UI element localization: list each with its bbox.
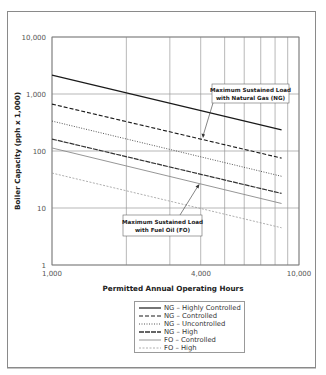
chart-legend: NG – Highly Controlled NG – Controlled N… xyxy=(134,301,245,353)
annotation-line: Maximum Sustained Load xyxy=(210,87,291,93)
series-line xyxy=(52,104,282,158)
x-tick-label: 1,000 xyxy=(42,270,62,278)
legend-label: NG – High xyxy=(164,328,198,336)
legend-swatch-dotted xyxy=(139,320,161,328)
legend-swatch-longdash xyxy=(139,328,161,336)
legend-label: NG – Controlled xyxy=(164,312,217,320)
x-axis-ticks: 1,000 4,000 10,000 xyxy=(42,270,311,278)
y-tick-label: 10 xyxy=(37,205,46,213)
annotation-line: with Natural Gas (NG) xyxy=(216,95,286,101)
y-axis-title: Boiler Capacity (pph x 1,000) xyxy=(13,92,22,210)
annotation-arrow xyxy=(180,186,198,215)
annotation-line: with Fuel Oil (FO) xyxy=(135,227,191,233)
annotation-natural-gas: Maximum Sustained Load with Natural Gas … xyxy=(202,84,292,138)
y-axis-ticks: 10,000 1,000 100 10 1 xyxy=(22,34,47,270)
y-tick-label: 100 xyxy=(33,148,46,156)
arrowhead-icon xyxy=(196,184,200,189)
annotation-arrow xyxy=(203,103,213,136)
legend-label: NG – Highly Controlled xyxy=(164,304,241,312)
series-line xyxy=(52,139,282,193)
legend-item: NG – High xyxy=(139,328,198,336)
y-tick-label: 1,000 xyxy=(26,91,46,99)
legend-label: FO – Controlled xyxy=(164,336,216,344)
annotation-fuel-oil: Maximum Sustained Load with Fuel Oil (FO… xyxy=(122,184,203,236)
x-tick-label: 10,000 xyxy=(287,270,312,278)
legend-swatch-dashed xyxy=(139,312,161,320)
legend-label: FO – High xyxy=(164,344,197,352)
legend-item: FO – Controlled xyxy=(139,336,216,344)
legend-swatch-gray-solid xyxy=(139,336,161,344)
legend-swatch-gray-dashed xyxy=(139,344,161,352)
legend-label: NG – Uncontrolled xyxy=(164,320,225,328)
annotation-line: Maximum Sustained Load xyxy=(122,219,203,225)
legend-item: NG – Uncontrolled xyxy=(139,320,225,328)
y-tick-label: 10,000 xyxy=(22,34,47,42)
legend-swatch-solid xyxy=(139,304,161,312)
arrowhead-icon xyxy=(202,134,206,139)
y-tick-label: 1 xyxy=(42,262,46,270)
series-line xyxy=(52,148,282,204)
legend-item: NG – Controlled xyxy=(139,312,217,320)
series-line xyxy=(52,121,282,176)
x-axis-title: Permitted Annual Operating Hours xyxy=(103,284,244,293)
x-tick-label: 4,000 xyxy=(191,270,211,278)
legend-item: NG – Highly Controlled xyxy=(139,304,241,312)
legend-item: FO – High xyxy=(139,344,197,352)
